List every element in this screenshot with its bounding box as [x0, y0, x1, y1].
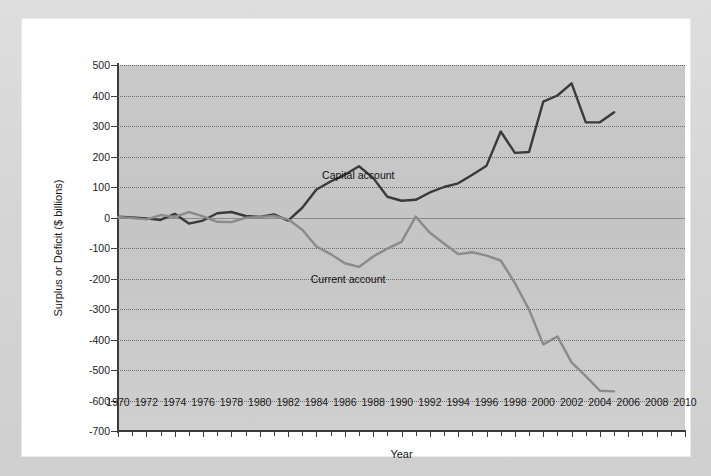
x-axis-tick-label: 2006 [617, 397, 640, 408]
x-axis-tick-label: 2002 [560, 397, 583, 408]
x-axis-tick-label: 1998 [503, 397, 526, 408]
x-axis-tick-label: 1994 [447, 397, 470, 408]
y-axis-tick-label: 200 [66, 152, 110, 163]
y-axis-tick [111, 218, 118, 219]
y-axis-tick-label: 300 [66, 121, 110, 132]
series-annotation: Capital account [322, 169, 394, 181]
y-axis-tick-label: 100 [66, 182, 110, 193]
y-axis-tick-label: -100 [66, 243, 110, 254]
series-line-capital-account [118, 83, 614, 223]
x-axis-tick-label: 1974 [163, 397, 186, 408]
y-axis-tick [111, 279, 118, 280]
x-axis-tick-label: 1984 [305, 397, 328, 408]
x-axis-tick-label: 1970 [106, 397, 129, 408]
x-axis-tick-label: 1992 [418, 397, 441, 408]
y-axis-tick-label: -700 [66, 426, 110, 437]
x-axis-tick-label: 2004 [588, 397, 611, 408]
y-axis-tick [111, 248, 118, 249]
x-axis-tick-label: 2000 [532, 397, 555, 408]
y-axis-tick [111, 96, 118, 97]
y-axis-tick-label: 500 [66, 60, 110, 71]
x-axis-tick-label: 1996 [475, 397, 498, 408]
x-axis-tick-label: 1978 [220, 397, 243, 408]
x-axis-tick-label: 1982 [276, 397, 299, 408]
y-axis-tick-label: -500 [66, 365, 110, 376]
x-axis-tick-label: 1986 [333, 397, 356, 408]
x-axis-line [117, 430, 686, 432]
y-axis-tick [111, 65, 118, 66]
y-axis-tick-label: 400 [66, 91, 110, 102]
y-axis-tick [111, 126, 118, 127]
series-annotation: Current account [311, 273, 386, 285]
x-axis-tick-label: 1988 [361, 397, 384, 408]
x-axis-tick-label: 1972 [135, 397, 158, 408]
chart-page: Surplus or Deficit ($ billions) 50040030… [0, 0, 711, 476]
y-axis-tick [111, 340, 118, 341]
y-axis-tick-label: -300 [66, 304, 110, 315]
y-axis-tick [111, 157, 118, 158]
y-axis-tick [111, 187, 118, 188]
x-axis-tick-label: 1980 [248, 397, 271, 408]
y-axis-tick [111, 309, 118, 310]
plot-area: 5004003002001000-100-200-300-400-500-600… [118, 65, 685, 431]
x-axis-tick-label: 1990 [390, 397, 413, 408]
x-axis-title: Year [118, 448, 685, 460]
x-axis-tick-label: 2008 [645, 397, 668, 408]
chart-card: Surplus or Deficit ($ billions) 50040030… [22, 19, 690, 456]
x-axis-tick-label: 1976 [191, 397, 214, 408]
y-axis-tick-label: -600 [66, 396, 110, 407]
x-axis-tick-label: 2010 [673, 397, 696, 408]
series-lines [118, 65, 685, 431]
y-axis-tick-label: -200 [66, 274, 110, 285]
y-axis-title-text: Surplus or Deficit ($ billions) [52, 180, 64, 317]
y-axis-tick [111, 370, 118, 371]
y-axis-tick-label: 0 [66, 213, 110, 224]
y-axis-tick-label: -400 [66, 335, 110, 346]
y-axis-title: Surplus or Deficit ($ billions) [50, 65, 66, 431]
series-line-current-account [118, 212, 614, 391]
